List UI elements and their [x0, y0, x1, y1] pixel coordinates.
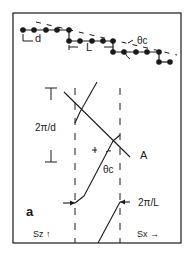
- d-label: d: [35, 32, 41, 44]
- theta-bottom-label: θc: [103, 164, 114, 175]
- period-d-label: 2π/d: [35, 122, 56, 133]
- panel-label: a: [26, 204, 34, 219]
- diagram-canvas: d L θc 2π/d A: [0, 0, 191, 265]
- arrowhead-left: [70, 201, 75, 206]
- axis-sz-label: Sz ↑: [33, 229, 51, 239]
- axis-sx-label: Sx →: [137, 229, 159, 239]
- theta-top-label: θc: [137, 35, 148, 46]
- average-surface-dashed-line: [36, 22, 177, 55]
- stepped-surface-chain: [21, 28, 172, 64]
- L-label: L: [86, 41, 92, 53]
- line-A-label: A: [140, 149, 148, 161]
- d-spacing-marker: [23, 34, 33, 41]
- arrowhead-right: [120, 200, 125, 205]
- period-L-label: 2π/L: [138, 197, 159, 208]
